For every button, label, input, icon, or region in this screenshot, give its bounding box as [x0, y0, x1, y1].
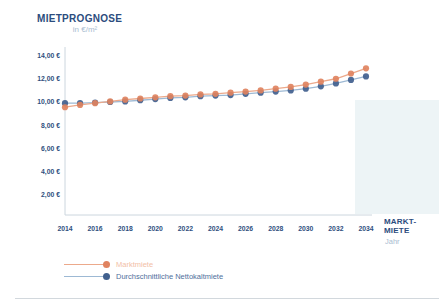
x-tick-label: 2028: [268, 225, 283, 232]
series-point-0: [303, 81, 309, 87]
x-tick-label: 2032: [328, 225, 343, 232]
legend-label-nettokaltmiete: Durchschnittliche Nettokaltmiete: [116, 272, 223, 281]
legend-label-marktmiete: Marktmiete: [116, 260, 153, 269]
y-tick-label: 10,00 €: [37, 98, 60, 106]
series-point-0: [137, 95, 143, 101]
nettokaltmiete-series-swatch: [64, 273, 110, 280]
y-tick-label: 12,00 €: [37, 75, 60, 83]
x-tick-label: 2024: [208, 225, 223, 232]
x-tick-label: 2030: [298, 225, 313, 232]
x-tick-label: 2034: [358, 225, 373, 232]
series-point-1: [363, 73, 369, 79]
series-point-0: [318, 79, 324, 85]
x-tick-label: 2026: [238, 225, 253, 232]
x-axis-title-line1: MARKT-: [384, 217, 416, 226]
series-point-0: [122, 97, 128, 103]
y-tick-label: 14,00 €: [37, 52, 60, 60]
series-point-0: [212, 91, 218, 97]
series-point-0: [107, 98, 113, 104]
x-axis-sublabel: Jahr: [385, 237, 400, 246]
series-point-0: [363, 65, 369, 71]
chart-legend: Marktmiete Durchschnittliche Nettokaltmi…: [64, 259, 223, 282]
x-tick-label: 2018: [118, 225, 133, 232]
marktmiete-dot-icon: [103, 261, 110, 268]
marktmiete-series-swatch: [64, 261, 110, 268]
legend-item-nettokaltmiete: Durchschnittliche Nettokaltmiete: [64, 271, 223, 283]
nettokaltmiete-dot-icon: [103, 273, 110, 280]
series-point-0: [77, 102, 83, 108]
series-point-0: [62, 104, 68, 110]
y-tick-label: 4,00 €: [41, 168, 60, 176]
y-tick-label: 6,00 €: [41, 145, 60, 153]
series-point-0: [152, 94, 158, 100]
y-tick-label: 8,00 €: [41, 122, 60, 130]
page-bottom-rule: [15, 298, 439, 299]
series-point-1: [348, 77, 354, 83]
series-point-0: [167, 93, 173, 99]
series-point-0: [92, 100, 98, 106]
series-point-0: [333, 76, 339, 82]
series-point-0: [348, 70, 354, 76]
legend-item-marktmiete: Marktmiete: [64, 259, 223, 271]
series-point-0: [288, 84, 294, 90]
series-point-0: [227, 90, 233, 96]
series-point-0: [243, 88, 249, 94]
x-axis-title-line2: MIETE: [384, 226, 416, 235]
series-point-0: [182, 93, 188, 99]
x-axis-title: MARKT- MIETE: [384, 217, 416, 235]
series-point-0: [197, 91, 203, 97]
series-point-0: [273, 86, 279, 92]
y-tick-label: 2,00 €: [41, 191, 60, 199]
x-tick-label: 2022: [178, 225, 193, 232]
x-tick-label: 2014: [57, 225, 72, 232]
x-tick-label: 2016: [88, 225, 103, 232]
series-point-0: [258, 87, 264, 93]
x-tick-label: 2020: [148, 225, 163, 232]
